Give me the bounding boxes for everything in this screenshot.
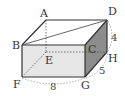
vertex-label-h: H	[108, 52, 118, 65]
vertex-label-b: B	[12, 39, 20, 52]
vertex-label-d: D	[108, 5, 117, 18]
vertex-label-a: A	[39, 7, 49, 20]
dimension-label-dh: 4	[111, 32, 117, 43]
cuboid-diagram: A B C D E F G H 8 5 4	[0, 0, 125, 96]
vertex-label-g: G	[81, 79, 90, 92]
front-face	[22, 45, 85, 77]
vertex-label-e: E	[45, 54, 53, 67]
dimension-label-fg: 8	[50, 81, 56, 92]
vertex-label-f: F	[13, 78, 21, 91]
dimension-label-gh: 5	[99, 65, 105, 76]
vertex-label-c: C	[88, 43, 96, 56]
